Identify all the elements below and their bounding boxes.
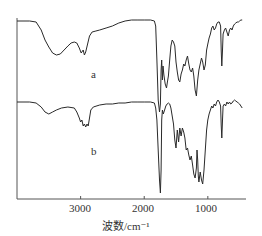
x-tick-label-2000: 2000	[132, 202, 154, 214]
x-tick-label-3000: 3000	[69, 202, 91, 214]
series-b-label: b	[91, 145, 97, 157]
x-tick-label-1000: 1000	[195, 202, 217, 214]
spectrum-curve-b	[17, 100, 242, 193]
x-axis-title: 波数/cm⁻¹	[102, 217, 150, 233]
spectrum-curves	[17, 20, 242, 193]
series-a-label: a	[91, 68, 96, 80]
spectrum-curve-a	[17, 20, 242, 112]
axes	[17, 18, 246, 199]
ir-spectrum-chart	[0, 0, 262, 236]
